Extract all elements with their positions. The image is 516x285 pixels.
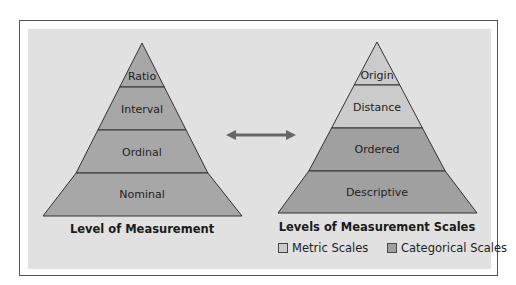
metric-swatch-icon xyxy=(278,243,288,253)
legend-item-metric: Metric Scales xyxy=(278,241,368,255)
label-ordinal: Ordinal xyxy=(122,146,162,159)
categorical-swatch-icon xyxy=(387,243,397,253)
right-pyramid-title: Levels of Measurement Scales xyxy=(279,220,476,234)
legend-label-metric: Metric Scales xyxy=(292,241,368,255)
left-pyramid: Ratio Interval Ordinal Nominal Level of … xyxy=(43,43,242,236)
label-interval: Interval xyxy=(121,103,163,116)
label-descriptive: Descriptive xyxy=(346,186,408,199)
legend-label-categorical: Categorical Scales xyxy=(401,241,507,255)
label-distance: Distance xyxy=(353,101,401,114)
label-nominal: Nominal xyxy=(119,188,165,201)
label-origin: Origin xyxy=(360,69,393,82)
legend-item-categorical: Categorical Scales xyxy=(387,241,507,255)
right-pyramid: Origin Distance Ordered Descriptive Leve… xyxy=(278,42,477,234)
double-arrow-icon xyxy=(226,130,296,140)
left-pyramid-title: Level of Measurement xyxy=(70,222,215,236)
label-ratio: Ratio xyxy=(128,70,157,83)
label-ordered: Ordered xyxy=(355,143,400,156)
